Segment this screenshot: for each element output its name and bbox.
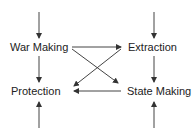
diagram-svg: War Making Extraction Protection State M… <box>0 0 195 133</box>
node-extraction: Extraction <box>128 41 177 53</box>
node-war-making: War Making <box>10 41 68 53</box>
diagram-canvas: War Making Extraction Protection State M… <box>0 0 195 133</box>
node-state-making: State Making <box>127 85 191 97</box>
node-protection: Protection <box>11 85 61 97</box>
edge-war-making-to-state-making <box>72 49 118 83</box>
